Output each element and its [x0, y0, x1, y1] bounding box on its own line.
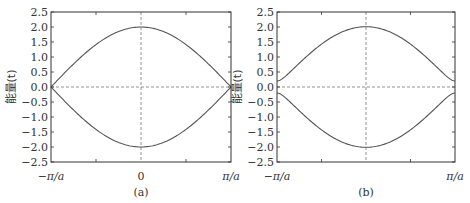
x-tick-label: −π/a: [264, 170, 291, 183]
y-tick-label: −2.0: [247, 141, 274, 154]
x-tick-label: 0: [138, 170, 145, 183]
y-tick-label: 0.0: [257, 81, 275, 94]
panel-b: 2.52.01.51.00.50.0−0.5−1.0−1.5−2.0−2.5−π…: [230, 6, 464, 199]
y-tick-label: −0.5: [247, 96, 274, 109]
y-tick-label: 2.0: [257, 21, 275, 34]
y-tick-label: 0.5: [257, 66, 275, 79]
panel-a: 2.52.01.51.00.50.0−0.5−1.0−1.5−2.0−2.5−π…: [4, 6, 240, 199]
y-axis-label: 能量(t): [4, 70, 18, 105]
y-tick-label: 1.5: [31, 36, 49, 49]
x-tick-label: π/a: [221, 170, 240, 183]
y-tick-label: 2.5: [257, 6, 275, 19]
y-tick-label: 1.5: [257, 36, 275, 49]
y-tick-label: −2.0: [21, 141, 48, 154]
y-tick-label: −1.0: [21, 111, 48, 124]
y-tick-label: 0.5: [31, 66, 49, 79]
y-tick-label: 2.0: [31, 21, 49, 34]
y-tick-label: 0.0: [31, 81, 49, 94]
y-tick-label: −1.5: [21, 126, 48, 139]
y-tick-label: 1.0: [257, 51, 275, 64]
y-tick-label: −0.5: [21, 96, 48, 109]
y-tick-label: −1.0: [247, 111, 274, 124]
panel-caption: (a): [133, 186, 148, 199]
panel-caption: (b): [358, 186, 374, 199]
y-tick-label: −1.5: [247, 126, 274, 139]
x-tick-label: −π/a: [38, 170, 65, 183]
y-axis-label: 能量(t): [230, 70, 244, 105]
x-tick-label: π/a: [445, 170, 464, 183]
y-tick-label: −2.5: [247, 156, 274, 169]
figure: 2.52.01.51.00.50.0−0.5−1.0−1.5−2.0−2.5−π…: [0, 0, 470, 203]
y-tick-label: 2.5: [31, 6, 49, 19]
y-tick-label: 1.0: [31, 51, 49, 64]
y-tick-label: −2.5: [21, 156, 48, 169]
